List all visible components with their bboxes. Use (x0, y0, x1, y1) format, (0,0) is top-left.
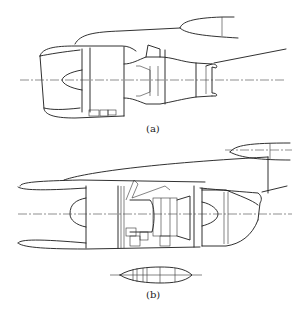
inlet-lip-lower-b (18, 240, 86, 243)
diagram-canvas (0, 0, 302, 310)
inlet-upper (40, 46, 136, 56)
strut-line (214, 49, 286, 63)
engine-installation-figure: (a) (b) (0, 0, 302, 310)
wing-a-lower-line (180, 28, 238, 38)
panel-b-drawing (18, 143, 292, 283)
panel-b-label: (b) (146, 289, 160, 300)
wing-a-upper-line (75, 17, 234, 44)
core-upper-a (124, 57, 212, 64)
wing-b-upper-surface (64, 157, 268, 180)
plan-view-section-b (110, 267, 202, 283)
wing-b-leading-edge (230, 143, 290, 152)
inlet-lip-upper-b (18, 187, 86, 190)
panel-a-label: (a) (146, 123, 160, 134)
panel-a-drawing (20, 17, 286, 118)
spinner-b (70, 198, 86, 227)
